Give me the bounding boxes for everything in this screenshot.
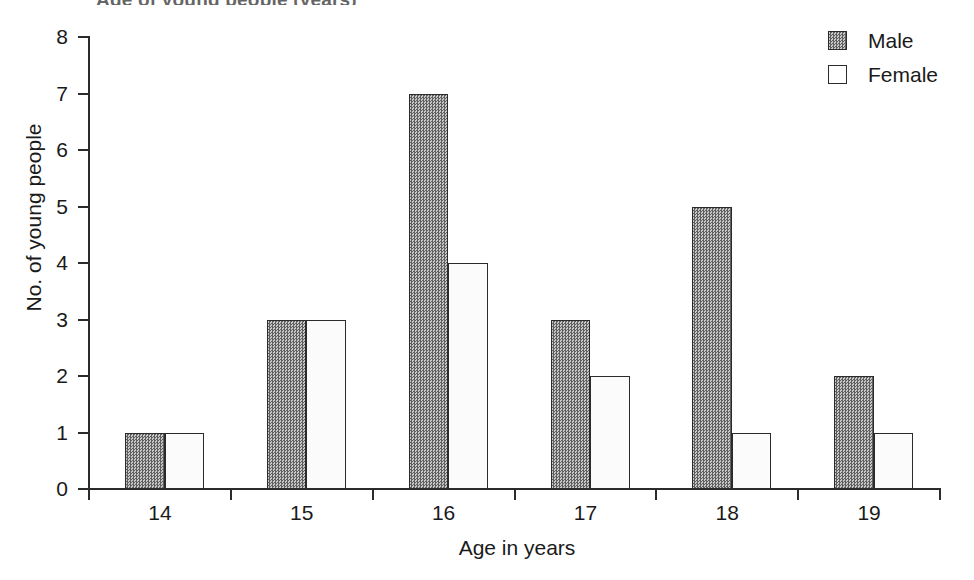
x-axis-tick-label: 16 xyxy=(404,500,484,526)
chart-title-clipped: Age of young people (years) xyxy=(0,0,974,5)
x-axis-tick xyxy=(939,489,941,500)
y-axis-title: No. of young people xyxy=(23,18,44,418)
legend-item-female[interactable]: Female xyxy=(828,64,938,85)
x-axis-tick-label: 19 xyxy=(829,500,909,526)
x-axis-tick xyxy=(514,489,516,500)
y-axis-tick xyxy=(78,319,89,321)
y-axis-tick xyxy=(78,93,89,95)
bar-male-age-15 xyxy=(267,320,307,490)
x-axis-tick-label: 14 xyxy=(120,500,200,526)
bar-female-age-17 xyxy=(590,376,630,489)
y-axis-tick xyxy=(78,262,89,264)
bar-female-age-19 xyxy=(874,433,914,490)
x-axis-title: Age in years xyxy=(0,536,974,560)
x-axis-tick xyxy=(797,489,799,500)
x-axis-tick-label: 15 xyxy=(262,500,342,526)
y-axis-tick xyxy=(78,149,89,151)
x-axis-tick-label: 17 xyxy=(545,500,625,526)
y-axis-tick xyxy=(78,432,89,434)
y-axis-tick-label: 1 xyxy=(10,422,68,443)
bar-female-age-18 xyxy=(732,433,772,490)
chart-legend: Male Female xyxy=(828,30,938,98)
bars-layer xyxy=(89,37,940,489)
bar-male-age-18 xyxy=(692,207,732,490)
bar-female-age-15 xyxy=(306,320,346,490)
x-axis-tick-label: 18 xyxy=(687,500,767,526)
legend-swatch-male-icon xyxy=(828,31,847,50)
bar-male-age-16 xyxy=(409,94,449,490)
bar-chart: Age of young people (years) 012345678 14… xyxy=(0,0,974,580)
y-axis-tick xyxy=(78,36,89,38)
y-axis-tick xyxy=(78,206,89,208)
legend-swatch-female-icon xyxy=(828,65,847,84)
x-axis-tick xyxy=(655,489,657,500)
y-axis-tick xyxy=(78,375,89,377)
legend-label-male: Male xyxy=(868,30,914,51)
bar-male-age-19 xyxy=(834,376,874,489)
legend-item-male[interactable]: Male xyxy=(828,30,938,51)
bar-male-age-14 xyxy=(125,433,165,490)
legend-label-female: Female xyxy=(868,64,938,85)
x-axis-tick xyxy=(372,489,374,500)
x-axis-tick xyxy=(88,489,90,500)
bar-male-age-17 xyxy=(551,320,591,490)
bar-female-age-16 xyxy=(448,263,488,489)
bar-female-age-14 xyxy=(165,433,205,490)
x-axis-tick xyxy=(230,489,232,500)
y-axis-tick-label: 0 xyxy=(10,478,68,499)
